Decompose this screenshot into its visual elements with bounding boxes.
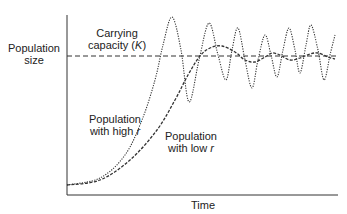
x-axis-label: Time	[183, 199, 223, 211]
high-r-label: Population with high r	[86, 113, 144, 137]
low-r-label: Population with low r	[162, 130, 220, 154]
carrying-capacity-label: Carrying capacity (K)	[86, 27, 148, 51]
population-growth-chart	[0, 0, 347, 214]
y-axis-label: Population size	[2, 42, 66, 66]
